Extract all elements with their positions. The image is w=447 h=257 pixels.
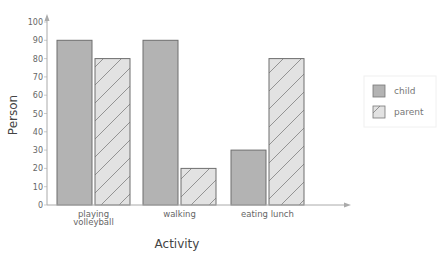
bars [57, 40, 304, 205]
y-axis-label: Person [6, 95, 20, 135]
legend-label-parent: parent [394, 107, 424, 117]
x-axis-label: Activity [155, 237, 200, 251]
bar-parent [181, 168, 216, 205]
bar-child [57, 40, 92, 205]
x-category-label: eating lunch [241, 209, 294, 219]
y-tick-label: 40 [33, 128, 43, 137]
y-tick-label: 50 [33, 110, 43, 119]
y-tick-label: 80 [33, 55, 43, 64]
y-tick-label: 10 [33, 183, 43, 192]
bar-child [231, 150, 266, 205]
bar-chart: 0102030405060708090100 playingvolleyball… [0, 0, 447, 257]
legend-box [364, 76, 436, 127]
y-tick-label: 30 [33, 146, 43, 155]
y-tick-label: 60 [33, 91, 43, 100]
legend-label-child: child [394, 86, 415, 96]
legend-swatch-parent [373, 106, 385, 118]
bar-parent [269, 59, 304, 205]
y-tick-label: 70 [33, 73, 43, 82]
y-axis-ticks: 0102030405060708090100 [28, 18, 47, 210]
y-tick-label: 20 [33, 164, 43, 173]
bar-child [143, 40, 178, 205]
y-axis-arrow-icon [45, 14, 50, 21]
x-axis-categories: playingvolleyballwalkingeating lunch [73, 209, 294, 227]
y-tick-label: 100 [28, 18, 43, 27]
x-category-label: volleyball [73, 217, 114, 227]
legend-swatch-child [373, 85, 385, 97]
x-category-label: walking [163, 209, 196, 219]
bar-parent [95, 59, 130, 205]
y-tick-label: 90 [33, 36, 43, 45]
x-axis-arrow-icon [344, 203, 351, 208]
legend: child parent [364, 76, 436, 127]
y-tick-label: 0 [38, 201, 43, 210]
